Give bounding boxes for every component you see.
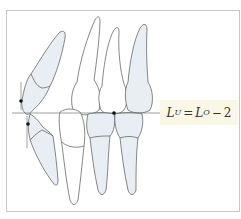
constant-value: 2 — [224, 106, 232, 120]
lhs-subscript: U — [174, 108, 181, 117]
marker-dot-lower-incisor — [26, 122, 30, 126]
rhs-variable: L — [195, 106, 203, 120]
equation-label: LU = LO − 2 — [160, 100, 238, 125]
marker-dot-upper-incisor — [19, 99, 23, 103]
upper-incisor — [22, 31, 66, 114]
upper-premolar-2 — [125, 24, 152, 113]
equals-sign: = — [183, 106, 193, 120]
lower-incisor — [28, 114, 58, 185]
lower-premolar-2 — [115, 113, 143, 195]
lower-canine — [59, 109, 85, 205]
rhs-subscript: O — [203, 108, 210, 117]
lower-premolar-1 — [87, 113, 115, 195]
upper-canine — [72, 17, 101, 115]
minus-sign: − — [212, 106, 222, 120]
marker-dot-premolar-contact — [112, 111, 116, 115]
upper-premolar-1 — [99, 28, 127, 115]
lhs-variable: L — [166, 106, 174, 120]
